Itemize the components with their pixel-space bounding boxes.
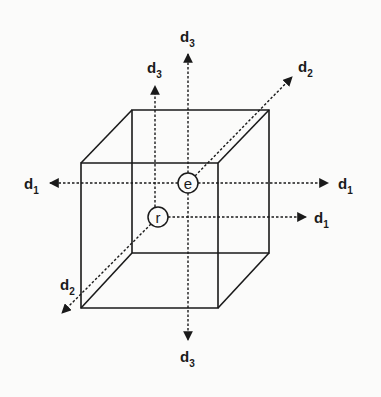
svg-text:e: e <box>184 175 192 192</box>
axis-label-d2-down: d2 <box>60 276 75 297</box>
axis-label-d3-up: d3 <box>180 28 195 49</box>
axis-label-d1-right: d1 <box>338 175 353 196</box>
axis-label-d2-up: d2 <box>298 58 313 79</box>
axis-label-d3-r: d3 <box>147 59 162 80</box>
axis-label-d1-left: d1 <box>24 175 39 196</box>
axis-label-d1-r: d1 <box>314 209 329 230</box>
cube-depth-edge <box>218 253 269 308</box>
axis-arrow-d2-down <box>62 224 151 313</box>
cube-depth-edge <box>81 253 132 308</box>
node-e: e <box>178 173 198 193</box>
cube-depth-edge <box>218 110 269 163</box>
svg-text:r: r <box>156 209 161 226</box>
cube-diagram: er d1d1d1d3d3d3d2d2 <box>0 0 381 397</box>
node-r: r <box>148 207 168 227</box>
axis-arrow-d2-up <box>195 77 292 176</box>
axis-label-d3-down: d3 <box>180 348 195 369</box>
cube-depth-edge <box>81 110 132 163</box>
cube <box>81 110 269 308</box>
